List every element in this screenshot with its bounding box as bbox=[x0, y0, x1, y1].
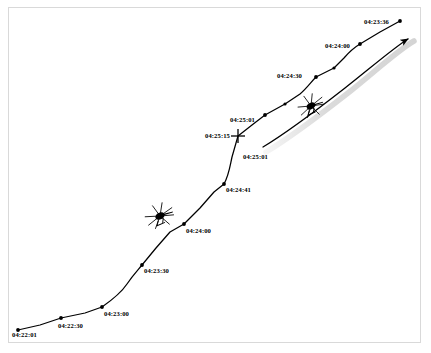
label-04-24-30: 04:24:30 bbox=[277, 73, 302, 80]
label-04-24-41: 04:24:41 bbox=[226, 187, 251, 194]
secondary-track-shadow bbox=[266, 41, 414, 152]
label-04-25-01-mid: 04:25:01 bbox=[230, 117, 255, 124]
label-04-24-00-upper: 04:24:00 bbox=[325, 43, 350, 50]
label-04-24-00-lower: 04:24:00 bbox=[186, 228, 211, 235]
label-04-25-01-lower: 04:25:01 bbox=[243, 154, 268, 161]
track-canvas bbox=[0, 0, 431, 353]
flight-track-figure: 04:22:0104:22:3004:23:0004:23:3004:24:00… bbox=[0, 0, 431, 353]
label-04-25-15: 04:25:15 bbox=[205, 133, 230, 140]
label-04-23-30: 04:23:30 bbox=[144, 268, 169, 275]
helicopter-symbol-lower bbox=[141, 198, 179, 234]
primary-track-line bbox=[18, 21, 400, 330]
waypoint-cross-marker bbox=[231, 129, 245, 143]
label-04-23-36: 04:23:36 bbox=[364, 19, 389, 26]
label-04-22-01: 04:22:01 bbox=[12, 332, 37, 339]
label-04-23-00: 04:23:00 bbox=[104, 311, 129, 318]
label-04-22-30: 04:22:30 bbox=[58, 323, 83, 330]
secondary-track-line bbox=[263, 39, 408, 147]
primary-track-waypoints bbox=[16, 19, 402, 332]
